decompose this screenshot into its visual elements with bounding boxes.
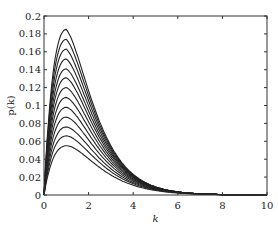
series-line: [44, 97, 267, 195]
series-line: [44, 49, 267, 195]
series-line: [44, 29, 267, 195]
plot-frame: [44, 16, 267, 195]
x-tick-label: 0: [41, 200, 47, 211]
series-line: [44, 127, 267, 195]
x-tick-label: 4: [130, 200, 136, 211]
y-tick-label: 0.08: [19, 118, 41, 129]
y-tick-label: 0.06: [19, 136, 41, 147]
chart: 024681000.020.040.060.080.10.120.140.160…: [0, 0, 278, 227]
y-tick-label: 0.2: [25, 11, 41, 22]
x-tick-label: 6: [175, 200, 181, 211]
y-axis-label: p(k): [5, 95, 16, 115]
y-tick-label: 0.04: [19, 154, 41, 165]
x-tick-label: 10: [261, 200, 274, 211]
series-line: [44, 107, 267, 195]
series-line: [44, 117, 267, 195]
y-tick-label: 0.12: [19, 82, 41, 93]
y-tick-label: 0: [35, 190, 41, 201]
series-line: [44, 69, 267, 195]
y-tick-label: 0.16: [19, 46, 41, 57]
series-line: [44, 59, 267, 195]
series-line: [44, 78, 267, 195]
x-tick-label: 8: [219, 200, 225, 211]
y-tick-label: 0.1: [25, 100, 41, 111]
line-chart: 024681000.020.040.060.080.10.120.140.160…: [0, 0, 278, 227]
y-tick-label: 0.18: [19, 28, 41, 39]
y-tick-label: 0.14: [19, 64, 41, 75]
x-axis-label: k: [152, 213, 158, 224]
series-line: [44, 136, 267, 195]
x-tick-label: 2: [85, 200, 91, 211]
y-tick-label: 0.02: [19, 172, 41, 183]
